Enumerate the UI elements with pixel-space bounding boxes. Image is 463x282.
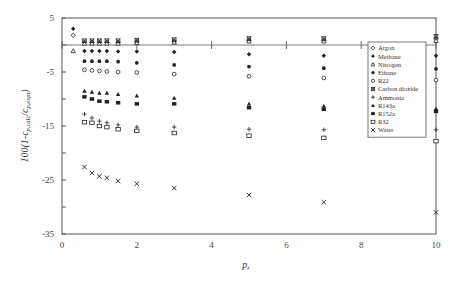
filled-circle-marker — [98, 59, 102, 63]
y-tick-label: -15 — [42, 121, 54, 131]
plus-marker — [90, 116, 94, 120]
y-tick-label: -35 — [42, 229, 54, 239]
plus-marker — [322, 128, 326, 132]
filled-square-marker — [116, 101, 120, 105]
filled-circle-marker — [90, 59, 94, 63]
open-square-marker — [90, 121, 94, 125]
legend-label: Argon — [378, 44, 395, 51]
asterisk-marker — [172, 37, 176, 41]
cross-marker — [105, 176, 109, 180]
filled-square-marker — [247, 106, 251, 110]
y-tick-label: 5 — [50, 13, 55, 23]
legend-label: R32 — [378, 118, 389, 125]
x-tick-label: 8 — [359, 240, 364, 250]
cross-marker — [97, 174, 101, 178]
filled-square-marker — [371, 112, 375, 115]
filled-diamond-marker — [135, 49, 139, 53]
open-square-marker — [105, 125, 109, 129]
cross-marker — [82, 165, 86, 169]
plus-marker — [434, 128, 438, 132]
open-square-marker — [322, 136, 326, 140]
filled-circle-marker — [371, 71, 374, 74]
legend-label: R143a — [378, 102, 395, 109]
x-tick-label: 2 — [135, 240, 140, 250]
y-axis-label: 100(1-cp,calc/cp,expt) — [19, 89, 31, 163]
filled-diamond-marker — [434, 54, 438, 58]
x-axis-label: pr — [241, 259, 250, 272]
plus-marker — [247, 127, 251, 131]
series-carbon-dioxide — [82, 34, 438, 43]
cross-marker — [322, 200, 326, 204]
filled-circle-marker — [105, 59, 109, 63]
plus-marker — [97, 119, 101, 123]
asterisk-marker — [82, 38, 86, 42]
filled-square-marker — [322, 108, 326, 112]
filled-diamond-marker — [247, 52, 251, 56]
filled-circle-marker — [322, 66, 326, 70]
open-square-marker — [82, 120, 86, 124]
y-tick-label: -5 — [47, 67, 55, 77]
filled-circle-marker — [247, 65, 251, 69]
open-triangle-marker — [71, 49, 75, 53]
legend-label: Water — [378, 126, 394, 133]
cross-marker — [135, 182, 139, 186]
filled-diamond-marker — [172, 50, 176, 54]
asterisk-marker — [135, 38, 139, 42]
plus-marker — [172, 125, 176, 129]
asterisk-marker — [90, 38, 94, 42]
filled-circle-marker — [172, 63, 176, 67]
plus-marker — [105, 121, 109, 125]
filled-diamond-marker — [105, 49, 109, 53]
open-circle-marker — [105, 70, 109, 74]
filled-diamond-marker — [90, 49, 94, 53]
asterisk-marker — [97, 38, 101, 42]
filled-triangle-marker — [97, 91, 101, 95]
plus-marker — [82, 112, 86, 116]
open-square-marker — [97, 124, 101, 128]
open-circle-marker — [135, 71, 139, 75]
filled-circle-marker — [434, 67, 438, 71]
open-square-marker — [172, 131, 176, 135]
filled-circle-marker — [116, 60, 120, 64]
plus-marker — [116, 123, 120, 127]
asterisk-marker — [247, 36, 251, 40]
open-circle-marker — [116, 70, 120, 74]
filled-triangle-marker — [105, 91, 109, 95]
cross-marker — [172, 186, 176, 190]
open-square-marker — [434, 139, 438, 143]
legend: ArgonMethaneNitrogenEthaneR22Carbon diox… — [368, 42, 426, 137]
chart: 5-5-15-25-350246810 ArgonMethaneNitrogen… — [0, 0, 463, 282]
y-tick-label: -25 — [42, 175, 54, 185]
open-circle-marker — [371, 79, 374, 82]
open-square-marker — [116, 127, 120, 131]
filled-diamond-marker — [82, 49, 86, 53]
open-circle-marker — [98, 69, 102, 73]
plus-marker — [135, 125, 139, 129]
asterisk-marker — [434, 34, 438, 38]
filled-diamond-marker — [97, 49, 101, 53]
legend-label: Carbon dioxide — [378, 85, 418, 92]
x-tick-label: 4 — [209, 240, 214, 250]
asterisk-marker — [116, 38, 120, 42]
open-square-marker — [371, 120, 375, 123]
filled-triangle-marker — [172, 96, 176, 100]
filled-diamond-marker — [322, 54, 326, 58]
legend-item: Carbon dioxide — [371, 85, 418, 92]
filled-triangle-marker — [82, 89, 86, 93]
cross-marker — [116, 179, 120, 183]
filled-triangle-marker — [116, 92, 120, 96]
x-tick-label: 0 — [60, 240, 65, 250]
open-circle-marker — [434, 78, 438, 82]
open-circle-marker — [83, 68, 87, 72]
legend-label: R152a — [378, 110, 395, 117]
legend-label: Methane — [378, 53, 401, 60]
filled-square-marker — [97, 99, 101, 103]
open-circle-marker — [90, 69, 94, 73]
filled-triangle-marker — [247, 102, 251, 106]
asterisk-marker — [371, 87, 375, 91]
legend-label: Ammonia — [378, 94, 404, 101]
open-diamond-marker — [71, 33, 75, 37]
filled-square-marker — [105, 100, 109, 104]
filled-square-marker — [82, 95, 86, 99]
filled-square-marker — [90, 97, 94, 101]
